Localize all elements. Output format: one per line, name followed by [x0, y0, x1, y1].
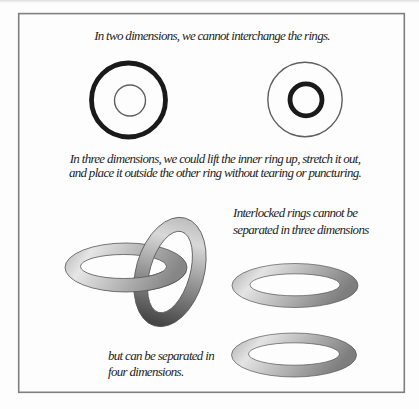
caption-line: but can be separated in: [108, 348, 268, 364]
thick-outer-circle: [92, 63, 166, 137]
caption-line: four dimensions.: [108, 364, 268, 380]
caption-two-dimensions: In two dimensions, we cannot interchange…: [19, 29, 405, 43]
caption-line: In two dimensions, we cannot interchange…: [19, 29, 405, 43]
interlocked-rings-group: [65, 209, 218, 335]
caption-separated: but can be separated in four dimensions.: [108, 348, 268, 379]
caption-line: Interlocked rings cannot be: [233, 204, 393, 221]
caption-line: In three dimensions, we could lift the i…: [22, 152, 408, 166]
scan-noise-artifact: [0, 0, 419, 3]
caption-line: and place it outside the other ring with…: [22, 166, 408, 180]
thin-outer-circle: [268, 62, 342, 136]
caption-line: separated in three dimensions: [233, 221, 393, 238]
rings-2d-left-group: [92, 63, 166, 137]
caption-interlocked: Interlocked rings cannot be separated in…: [233, 204, 393, 238]
thin-inner-circle: [115, 85, 146, 116]
thick-inner-circle: [290, 84, 322, 116]
rings-2d-right-group: [268, 62, 342, 136]
figure-frame: [19, 14, 405, 393]
separated-ring-top: [232, 264, 358, 308]
caption-three-dimensions: In three dimensions, we could lift the i…: [22, 152, 408, 179]
figure-canvas: In two dimensions, we cannot interchange…: [0, 0, 419, 409]
